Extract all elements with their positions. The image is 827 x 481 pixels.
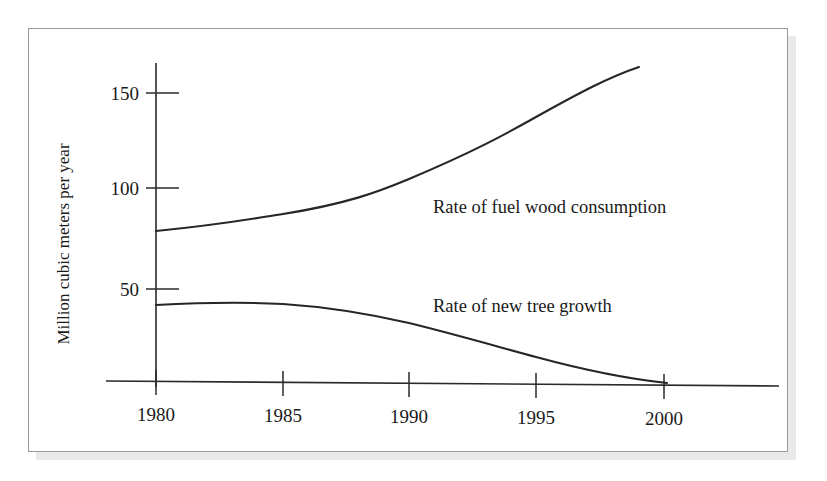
x-axis-line: [106, 381, 779, 386]
x-tick-label-1995: 1995: [517, 407, 555, 428]
x-tick-label-1985: 1985: [264, 405, 302, 426]
figure-root: 150 100 50 1980 1985 1990 1995 2000 Mill…: [0, 0, 827, 481]
x-tick-label-2000: 2000: [645, 408, 683, 429]
series-label-fuel-wood-consumption: Rate of fuel wood consumption: [433, 197, 666, 217]
y-tick-label-50: 50: [120, 279, 139, 300]
series-label-new-tree-growth: Rate of new tree growth: [433, 296, 612, 316]
y-tick-label-100: 100: [111, 178, 140, 199]
y-tick-label-150: 150: [111, 83, 140, 104]
figure-frame: 150 100 50 1980 1985 1990 1995 2000 Mill…: [28, 28, 788, 452]
line-chart: 150 100 50 1980 1985 1990 1995 2000 Mill…: [29, 29, 787, 451]
x-tick-label-1980: 1980: [137, 404, 175, 425]
x-tick-label-1990: 1990: [390, 406, 428, 427]
y-axis-title: Million cubic meters per year: [54, 143, 73, 344]
